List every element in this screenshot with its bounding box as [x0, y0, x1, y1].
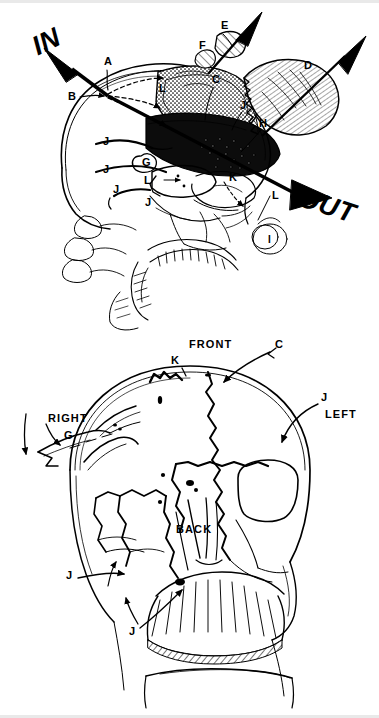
- diagram-sheet: IN OUT A B L C E F D J H J J G L J J K L…: [0, 0, 379, 718]
- top-label-l-1: L: [159, 83, 166, 94]
- frontal-skull-group: [25, 348, 319, 708]
- bottom-label-j-1: J: [321, 392, 327, 403]
- skull-line-art: [0, 0, 379, 718]
- top-label-i: I: [262, 232, 277, 247]
- top-label-l-3: L: [272, 190, 279, 201]
- bottom-label-front: FRONT: [189, 339, 232, 350]
- bottom-label-left: LEFT: [325, 409, 357, 420]
- top-label-j-1: J: [240, 100, 246, 111]
- top-label-d: D: [304, 60, 312, 71]
- top-label-b: B: [68, 91, 76, 102]
- bottom-label-k: K: [171, 355, 179, 366]
- top-label-c: C: [212, 74, 220, 85]
- top-label-j-4: J: [113, 184, 119, 195]
- top-label-e: E: [221, 20, 228, 31]
- bottom-label-c: C: [275, 339, 283, 350]
- top-label-l-2: L: [144, 175, 151, 186]
- bottom-label-right: RIGHT: [48, 413, 88, 424]
- top-label-f: F: [199, 40, 206, 51]
- top-label-j-2: J: [103, 136, 109, 147]
- in-trajectory-arrow: [44, 48, 108, 96]
- top-label-g: G: [142, 157, 151, 168]
- lateral-skull-group: [44, 12, 366, 330]
- bottom-label-j-3: J: [129, 626, 135, 637]
- bottom-label-g: G: [64, 430, 73, 441]
- bottom-label-j-2: J: [66, 570, 72, 581]
- top-label-h: H: [259, 118, 267, 129]
- top-label-k: K: [229, 172, 237, 183]
- bottom-label-back: BACK: [176, 524, 212, 535]
- top-label-j-5: J: [145, 197, 151, 208]
- top-label-j-3: J: [103, 164, 109, 175]
- top-label-a: A: [104, 56, 112, 67]
